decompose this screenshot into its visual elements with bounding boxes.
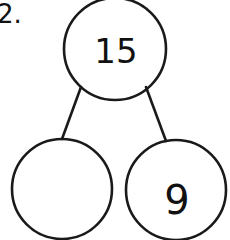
whole-value: 15	[94, 34, 137, 68]
part-circle-left	[12, 139, 112, 239]
connector-right	[146, 87, 166, 141]
connector-left	[62, 87, 81, 139]
part-right-value: 9	[164, 180, 189, 220]
problem-number: 2.	[0, 1, 22, 27]
